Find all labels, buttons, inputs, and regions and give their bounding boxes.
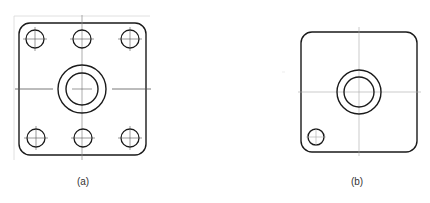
technical-drawing	[0, 0, 430, 203]
caption-b: (b)	[351, 176, 363, 187]
bolt-holes-a	[23, 27, 142, 150]
figure-b	[282, 27, 421, 156]
caption-a: (a)	[77, 176, 89, 187]
figure-a	[14, 15, 151, 160]
